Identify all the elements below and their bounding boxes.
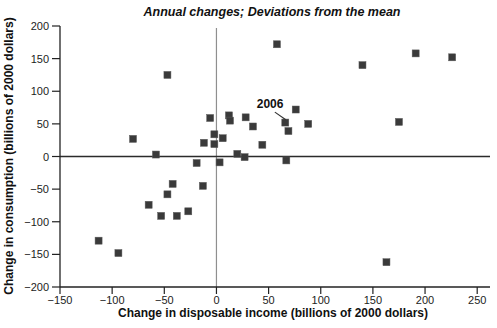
data-point	[359, 62, 366, 69]
data-point	[282, 119, 289, 126]
data-point	[173, 212, 180, 219]
chart-title: Annual changes; Deviations from the mean	[143, 5, 401, 19]
x-tick-label: 150	[364, 294, 382, 306]
data-point	[164, 191, 171, 198]
data-point	[164, 71, 171, 78]
data-point	[285, 128, 292, 135]
data-point	[305, 120, 312, 127]
y-tick-label: 100	[31, 85, 49, 97]
annotation-2006-line	[275, 112, 286, 120]
x-tick-label: 50	[262, 294, 274, 306]
x-tick-label: 100	[312, 294, 330, 306]
data-point	[234, 150, 241, 157]
data-point	[130, 135, 137, 142]
y-tick-label: 200	[31, 20, 49, 32]
x-tick-label: 200	[416, 294, 434, 306]
data-point	[219, 135, 226, 142]
y-tick-label: 150	[31, 53, 49, 65]
chart-figure: Annual changes; Deviations from the mean…	[0, 0, 497, 328]
x-tick-label: 250	[468, 294, 486, 306]
data-point	[292, 106, 299, 113]
data-point	[158, 212, 165, 219]
data-point	[211, 141, 218, 148]
data-point	[185, 208, 192, 215]
y-tick-label: −150	[24, 248, 49, 260]
x-tick-label: −50	[155, 294, 174, 306]
data-point	[449, 54, 456, 61]
x-tick-label: 0	[213, 294, 219, 306]
data-point	[216, 159, 223, 166]
y-tick-label: 50	[37, 118, 49, 130]
plot-area: −150−100−50050100150200250−200−150−100−5…	[24, 20, 490, 306]
data-point	[199, 182, 206, 189]
data-point	[193, 160, 200, 167]
data-point	[383, 259, 390, 266]
data-point	[395, 118, 402, 125]
data-point	[169, 180, 176, 187]
data-point	[242, 114, 249, 121]
data-point	[95, 237, 102, 244]
x-tick-label: −100	[100, 294, 125, 306]
data-point	[145, 201, 152, 208]
x-tick-label: −150	[48, 294, 73, 306]
annotation-2006-label: 2006	[257, 97, 284, 111]
data-point	[249, 123, 256, 130]
data-point	[283, 157, 290, 164]
y-axis-title: Change in consumption (billions of 2000 …	[2, 17, 16, 294]
y-tick-label: 0	[43, 151, 49, 163]
data-point	[200, 139, 207, 146]
y-tick-label: −100	[24, 216, 49, 228]
data-point	[273, 41, 280, 48]
scatter-plot: Annual changes; Deviations from the mean…	[0, 0, 497, 328]
data-point	[115, 250, 122, 257]
data-point	[211, 131, 218, 138]
y-tick-label: −50	[30, 183, 49, 195]
data-point	[241, 154, 248, 161]
y-tick-label: −200	[24, 281, 49, 293]
data-point	[259, 141, 266, 148]
data-point	[412, 50, 419, 57]
x-axis-title: Change in disposable income (billions of…	[118, 306, 428, 320]
data-point	[207, 115, 214, 122]
data-point	[152, 151, 159, 158]
data-point	[227, 117, 234, 124]
